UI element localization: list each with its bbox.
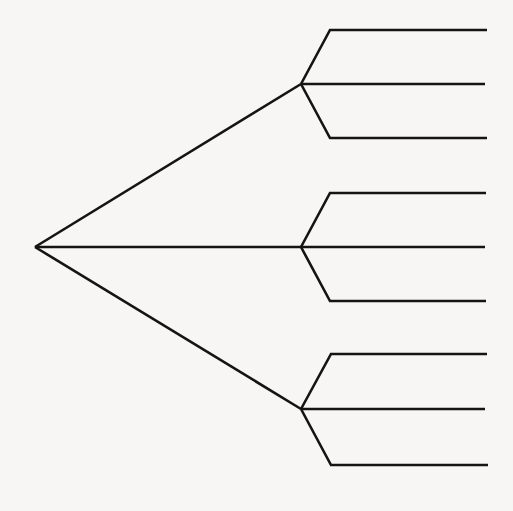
leaf-edges [301,30,488,465]
root-edges [35,84,301,409]
tree-diagram-svg [0,0,513,511]
edge-leaf-2-3 [301,247,486,301]
edge-root-to-branch-3 [35,247,301,409]
tree-diagram [0,0,513,511]
edge-leaf-3-1 [301,354,487,409]
edge-root-to-branch-1 [35,84,301,247]
edge-leaf-3-3 [301,409,488,465]
edge-leaf-1-3 [301,84,487,138]
edge-leaf-1-1 [301,30,487,84]
edge-leaf-2-1 [301,193,486,247]
